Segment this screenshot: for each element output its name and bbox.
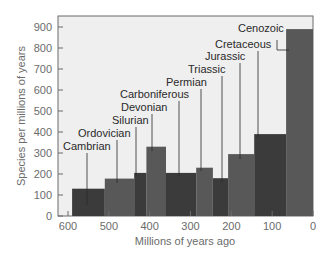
bar-jurassic	[228, 154, 254, 216]
y-tick-label: 800	[34, 42, 52, 54]
period-label-triassic: Triassic	[188, 63, 226, 75]
bar-triassic	[213, 178, 228, 216]
period-label-devonian: Devonian	[121, 101, 167, 113]
bar-cambrian	[72, 189, 105, 216]
species-diversity-chart: CambrianOrdovicianSilurianDevonianCarbon…	[0, 0, 333, 256]
y-tick-label: 500	[34, 105, 52, 117]
period-label-cambrian: Cambrian	[63, 140, 111, 152]
period-label-cretaceous: Cretaceous	[215, 38, 272, 50]
period-label-permian: Permian	[166, 76, 207, 88]
x-tick-label: 600	[59, 220, 77, 232]
y-tick-label: 300	[34, 147, 52, 159]
bar-carboniferous	[166, 173, 196, 216]
x-tick-label: 300	[181, 220, 199, 232]
x-tick-label: 200	[222, 220, 240, 232]
y-tick-label: 900	[34, 21, 52, 33]
period-label-carboniferous: Carboniferous	[120, 88, 190, 100]
y-tick-label: 700	[34, 63, 52, 75]
y-tick-label: 0	[46, 210, 52, 222]
y-tick-label: 100	[34, 189, 52, 201]
period-label-ordovician: Ordovician	[78, 127, 131, 139]
x-tick-label: 500	[100, 220, 118, 232]
bar-cretaceous	[254, 134, 286, 216]
bar-permian	[196, 168, 213, 216]
x-axis-title: Millions of years ago	[135, 235, 235, 247]
x-tick-label: 100	[263, 220, 281, 232]
period-label-cenozoic: Cenozoic	[238, 22, 284, 34]
x-tick-label: 400	[140, 220, 158, 232]
bar-silurian	[134, 173, 146, 216]
y-tick-label: 400	[34, 126, 52, 138]
y-tick-label: 200	[34, 168, 52, 180]
y-tick-label: 600	[34, 84, 52, 96]
bar-devonian	[146, 147, 166, 216]
x-tick-label: 0	[310, 220, 316, 232]
bar-cenozoic	[286, 29, 313, 216]
y-axis-title: Species per millions of years	[15, 46, 27, 187]
period-label-silurian: Silurian	[112, 114, 149, 126]
period-label-jurassic: Jurassic	[205, 50, 246, 62]
bar-ordovician	[105, 179, 134, 216]
